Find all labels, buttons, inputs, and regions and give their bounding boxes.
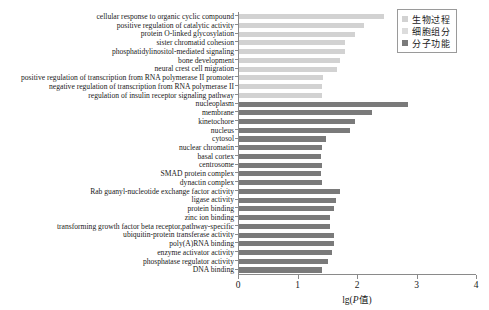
legend: 生物过程 细胞组分 分子功能 (397, 9, 457, 53)
legend-item-biological-process[interactable]: 生物过程 (402, 13, 450, 25)
bar (238, 154, 321, 159)
x-axis-tick (238, 275, 239, 279)
bar (238, 40, 345, 45)
x-axis-tick (417, 275, 418, 279)
bar (238, 215, 330, 220)
bar (238, 233, 334, 238)
bar (238, 67, 337, 72)
bar (238, 224, 330, 229)
x-axis-tick (298, 275, 299, 279)
bar (238, 75, 323, 80)
bar (238, 267, 322, 272)
bar (238, 58, 340, 63)
bar (238, 259, 328, 264)
bar (238, 198, 336, 203)
bar (238, 49, 345, 54)
legend-swatch-icon (402, 40, 408, 46)
x-axis-tick-label: 4 (461, 280, 489, 290)
x-axis-tick-label: 1 (283, 280, 313, 290)
bar (238, 128, 350, 133)
bar (238, 23, 364, 28)
legend-swatch-icon (402, 28, 408, 34)
bar (238, 180, 322, 185)
bar (238, 32, 355, 37)
bar (238, 14, 384, 19)
bar (238, 102, 408, 107)
x-axis-tick-label: 0 (223, 280, 253, 290)
x-axis-tick (476, 275, 477, 279)
legend-label: 分子功能 (412, 37, 450, 50)
go-enrichment-bar-chart: cellular response to organic cyclic comp… (0, 0, 489, 310)
bar (238, 84, 322, 89)
x-axis-tick-label: 3 (402, 280, 432, 290)
legend-item-cellular-component[interactable]: 细胞组分 (402, 25, 450, 37)
category-axis-labels: cellular response to organic cyclic comp… (0, 12, 234, 274)
bar (238, 163, 322, 168)
bar (238, 189, 340, 194)
bar (238, 241, 334, 246)
bar (238, 250, 332, 255)
bar (238, 136, 326, 141)
bar (238, 145, 322, 150)
bar (238, 206, 334, 211)
category-label: DNA binding (0, 265, 234, 276)
bar (238, 93, 322, 98)
bar (238, 119, 355, 124)
y-axis-line (238, 12, 239, 274)
bar (238, 110, 372, 115)
legend-item-molecular-function[interactable]: 分子功能 (402, 37, 450, 49)
x-axis-tick (357, 275, 358, 279)
x-axis-tick-label: 2 (342, 280, 372, 290)
bar (238, 171, 321, 176)
x-axis-title: lg(P值) (238, 292, 476, 306)
legend-swatch-icon (402, 16, 408, 22)
